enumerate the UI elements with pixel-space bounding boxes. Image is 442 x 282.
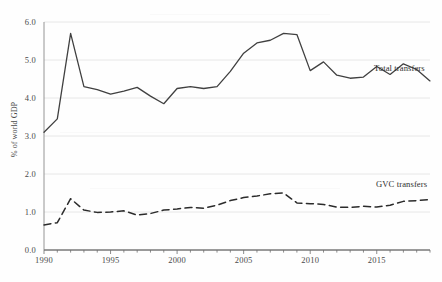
x-tick-label: 2015: [357, 255, 397, 265]
x-axis-ticks: [44, 250, 430, 254]
y-tick-label: 2.0: [10, 169, 36, 179]
scan-artifact: [90, 188, 340, 189]
series-line-gvc-transfers: [44, 193, 430, 225]
y-tick-label: 5.0: [10, 55, 36, 65]
series-line-total-transfers: [44, 33, 430, 132]
chart-figure: % of world GDP 0.01.02.03.04.05.06.0 199…: [0, 0, 442, 282]
y-tick-label: 4.0: [10, 93, 36, 103]
scan-artifact: [150, 14, 330, 15]
data-series-paths: [44, 33, 430, 225]
chart-plot-area: [0, 0, 442, 282]
y-tick-label: 1.0: [10, 207, 36, 217]
series-label-total-transfers: Total transfers: [374, 63, 425, 73]
y-tick-label: 3.0: [10, 131, 36, 141]
x-tick-label: 2010: [290, 255, 330, 265]
y-tick-label: 6.0: [10, 17, 36, 27]
x-tick-label: 1995: [91, 255, 131, 265]
series-label-gvc-transfers: GVC transfers: [376, 179, 427, 189]
y-tick-label: 0.0: [10, 245, 36, 255]
x-tick-label: 2000: [157, 255, 197, 265]
scan-artifact: [60, 132, 360, 133]
x-tick-label: 1990: [24, 255, 64, 265]
x-tick-label: 2005: [224, 255, 264, 265]
gridlines: [44, 22, 430, 250]
